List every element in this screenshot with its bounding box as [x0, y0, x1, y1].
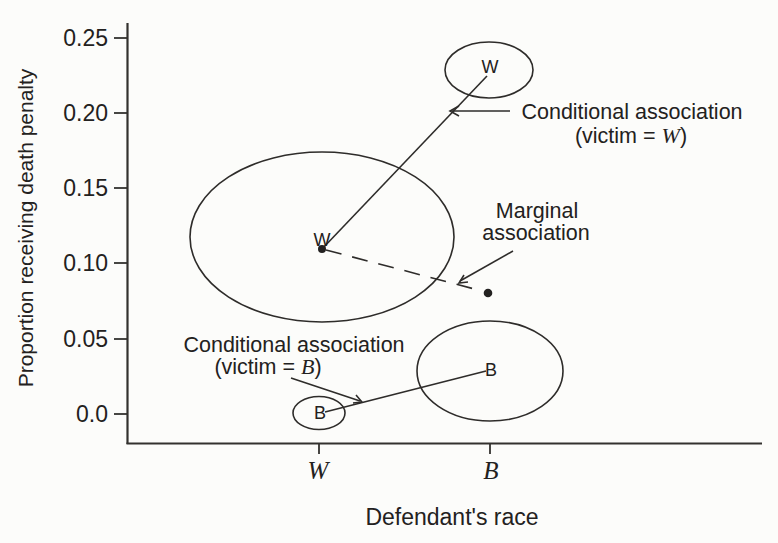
y-tick-label: 0.15	[63, 175, 108, 201]
annotation-conditional-b-line1: Conditional association	[183, 333, 404, 357]
annotation-marginal-line1: Marginal	[496, 199, 578, 223]
association-scatter-chart: 0.25 0.20 0.15 0.10 0.05 0.0 W B Defenda…	[0, 0, 778, 543]
conditional-line-victim-w	[322, 76, 487, 249]
point-label-defendant-w-victim-w: W	[314, 230, 331, 250]
annotation-conditional-w-line2: (victim = W)	[575, 123, 687, 148]
point-label-defendant-b-victim-w: W	[482, 57, 499, 77]
conditional-line-victim-b	[325, 371, 486, 412]
y-tick-label: 0.05	[63, 326, 108, 352]
y-tick-label: 0.10	[63, 250, 108, 276]
y-tick-label: 0.0	[76, 401, 108, 427]
annotation-conditional-w-line1: Conditional association	[521, 100, 742, 124]
point-marker-marginal-defendant-b	[484, 289, 493, 298]
x-axis-title: Defendant's race	[365, 504, 538, 530]
x-tick-label-b: B	[483, 457, 498, 484]
death-penalty-figure: 0.25 0.20 0.15 0.10 0.05 0.0 W B Defenda…	[0, 0, 778, 543]
y-axis-title: Proportion receiving death penalty	[14, 68, 37, 387]
annotation-marginal-line2: association	[482, 221, 590, 245]
point-label-defendant-w-victim-b: B	[314, 403, 326, 423]
x-tick-label-w: W	[308, 457, 331, 484]
point-label-defendant-b-victim-b: B	[485, 360, 497, 380]
annotation-conditional-b-line2: (victim = B)	[214, 354, 321, 379]
annotation-arrow-marginal	[460, 251, 513, 281]
y-tick-label: 0.25	[63, 25, 108, 51]
marginal-association-line	[326, 250, 482, 291]
y-tick-label: 0.20	[63, 100, 108, 126]
